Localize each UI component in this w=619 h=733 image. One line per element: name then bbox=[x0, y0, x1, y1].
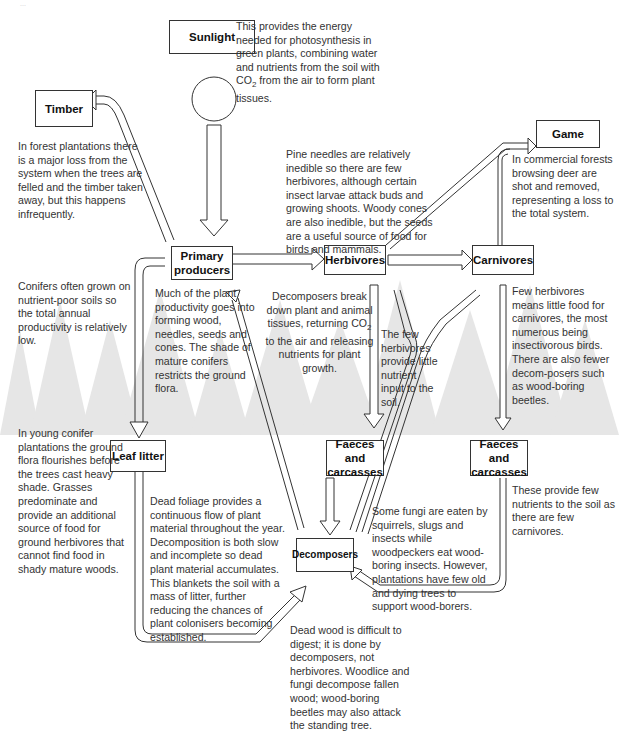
node-faeces-herbivores: Faeces and carcasses bbox=[326, 440, 384, 476]
arrow-faeces-to-decomposers bbox=[320, 478, 340, 535]
note-dead-foliage: Dead foliage provides a continuous flow … bbox=[150, 495, 285, 645]
node-primary-producers: Primary producers bbox=[171, 246, 233, 280]
note-young-conifer: In young conifer plantations the ground … bbox=[18, 427, 133, 577]
note-decomposers-text-end: to the air and releasing nutrients for p… bbox=[266, 335, 374, 374]
node-carnivores: Carnivores bbox=[472, 245, 534, 275]
note-game: In commercial forests browsing deer are … bbox=[512, 153, 617, 221]
note-few-herbivores: The few herbivores provide little nutrie… bbox=[381, 328, 439, 410]
arrow-sun-to-producers bbox=[200, 125, 228, 236]
note-decomposers: Decomposers break down plant and animal … bbox=[262, 290, 377, 376]
node-game: Game bbox=[536, 120, 600, 148]
note-dead-wood: Dead wood is difficult to digest; it is … bbox=[290, 624, 415, 733]
note-herbivores: Pine needles are relatively inedible so … bbox=[286, 148, 436, 257]
note-conifers: Conifers often grown on nutrient-poor so… bbox=[18, 280, 133, 348]
note-fungi: Some fungi are eaten by squirrels, slugs… bbox=[372, 505, 492, 614]
node-decomposers: Decomposers bbox=[296, 538, 354, 572]
subscript: 2 bbox=[367, 323, 371, 332]
note-productivity: Much of the plant productivity goes into… bbox=[155, 287, 260, 396]
note-carnivores: Few herbivores means little food for car… bbox=[512, 285, 618, 407]
node-timber: Timber bbox=[35, 90, 93, 127]
arrow-carnivores-to-game bbox=[498, 149, 510, 248]
note-few-carnivores: These provide few nutrients to the soil … bbox=[512, 484, 617, 538]
sun-circle bbox=[192, 77, 236, 121]
note-sunlight-text-end: from the air to form plant tissues. bbox=[236, 74, 375, 104]
note-timber: In forest plantations there is a major l… bbox=[18, 140, 143, 222]
note-sunlight: This provides the energy needed for phot… bbox=[236, 20, 386, 106]
node-faeces-carnivores: Faeces and carcasses bbox=[470, 440, 528, 476]
note-decomposers-text: Decomposers break down plant and animal … bbox=[266, 290, 372, 329]
